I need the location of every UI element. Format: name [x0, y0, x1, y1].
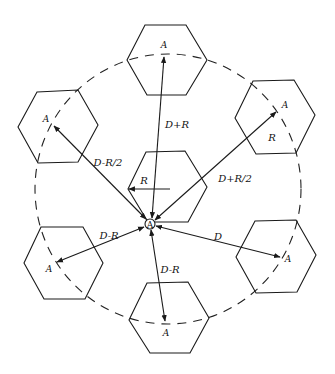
cell-label-top: A: [160, 40, 168, 50]
distance-label-upper-left: D-R/2: [93, 157, 123, 168]
hex-cell-lower-left: [24, 227, 103, 299]
distance-label-bottom: D-R: [159, 264, 180, 275]
distance-arrow-top: [152, 57, 164, 218]
cell-label-upper-left: A: [42, 114, 50, 124]
hex-cell-upper-left: [18, 90, 98, 163]
distance-arrow-bottom: [151, 230, 165, 321]
center-cell-label: A: [146, 220, 154, 230]
cell-label-lower-left: A: [45, 264, 53, 274]
hex-cell-top: [127, 25, 207, 95]
distance-label-lower-left: D-R: [98, 230, 119, 241]
distance-arrow-upper-left: [54, 126, 146, 219]
upper-right-radius-label: R: [267, 132, 276, 143]
distance-label-top: D+R: [164, 119, 189, 130]
cell-label-bottom: A: [162, 328, 170, 338]
interference-diagram: A A A A A A A R R D+R D+R/2 D D-R D-R D-…: [0, 0, 335, 374]
center-radius-label: R: [139, 175, 148, 186]
cell-label-lower-right: A: [284, 254, 292, 264]
hex-cell-bottom: [129, 282, 209, 353]
distance-label-lower-right: D: [213, 231, 222, 242]
hex-cell-center: [128, 151, 207, 222]
cell-label-upper-right: A: [281, 100, 289, 110]
distance-label-upper-right: D+R/2: [217, 173, 252, 184]
